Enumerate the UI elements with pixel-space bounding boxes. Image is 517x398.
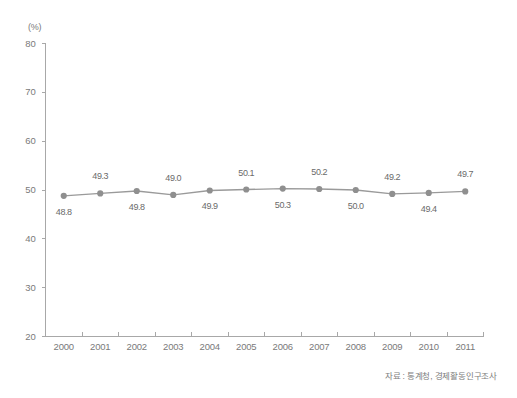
x-axis-tick-label: 2011: [445, 341, 485, 352]
x-axis-tick-label: 2005: [226, 341, 266, 352]
chart-container: (%) 20304050607080 200020012002200320042…: [0, 0, 517, 398]
data-point-label: 48.8: [44, 207, 84, 217]
y-axis-tick-label: 30: [10, 282, 36, 293]
x-axis-tick-label: 2003: [153, 341, 193, 352]
x-axis-tick-label: 2004: [190, 341, 230, 352]
y-axis-tick-label: 20: [10, 331, 36, 342]
data-point-label: 49.4: [409, 204, 449, 214]
x-axis-tick-label: 2008: [336, 341, 376, 352]
x-axis-tick-label: 2009: [372, 341, 412, 352]
data-point-label: 49.2: [372, 172, 412, 182]
y-axis-tick-label: 70: [10, 86, 36, 97]
x-axis-tick-label: 2000: [44, 341, 84, 352]
chart-series-line: [64, 189, 466, 196]
y-axis-tick-label: 50: [10, 184, 36, 195]
chart-axes: [42, 44, 484, 337]
data-point-label: 50.3: [263, 200, 303, 210]
y-axis-tick-label: 40: [10, 233, 36, 244]
data-point-label: 49.0: [153, 173, 193, 183]
x-axis-tick-label: 2006: [263, 341, 303, 352]
data-point-label: 50.1: [226, 168, 266, 178]
source-note: 자료 : 통계청, 경제활동인구조사: [385, 369, 497, 381]
data-point-label: 50.0: [336, 201, 376, 211]
data-point-label: 49.3: [80, 171, 120, 181]
x-axis-tick-label: 2007: [299, 341, 339, 352]
data-point-label: 49.7: [445, 169, 485, 179]
y-axis-tick-label: 80: [10, 38, 36, 49]
data-point-label: 50.2: [299, 167, 339, 177]
y-axis-tick-label: 60: [10, 135, 36, 146]
x-axis-tick-label: 2010: [409, 341, 449, 352]
x-axis-tick-label: 2002: [117, 341, 157, 352]
data-point-label: 49.9: [190, 201, 230, 211]
data-point-label: 49.8: [117, 202, 157, 212]
x-axis-tick-label: 2001: [80, 341, 120, 352]
chart-plot-area: [0, 0, 517, 398]
